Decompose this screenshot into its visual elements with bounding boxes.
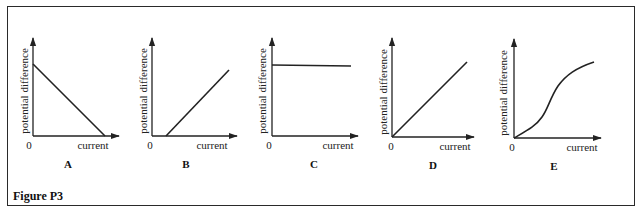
figure-caption: Figure P3	[13, 189, 63, 204]
x-axis-label: current	[322, 139, 353, 151]
y-axis-label: potential difference	[18, 48, 30, 134]
x-axis-label: current	[566, 141, 597, 153]
y-axis-label: potential difference	[137, 48, 149, 134]
panel-a: potential difference 0 current A	[18, 38, 119, 170]
origin-label: 0	[147, 139, 153, 151]
panel-letter: D	[429, 159, 437, 171]
graph-line	[33, 64, 105, 136]
origin-label: 0	[509, 141, 515, 153]
origin-label: 0	[266, 139, 272, 151]
x-axis-label: current	[77, 139, 108, 151]
graph-curve	[514, 62, 594, 138]
y-axis-label: potential difference	[377, 49, 389, 135]
graph-line	[392, 62, 467, 137]
panel-letter: A	[64, 158, 72, 170]
panel-d: potential difference 0 current D	[377, 38, 474, 171]
panel-letter: B	[182, 158, 190, 170]
y-axis-label: potential difference	[256, 48, 268, 134]
origin-label: 0	[388, 140, 394, 152]
panel-c: potential difference 0 current C	[256, 38, 358, 170]
panel-b: potential difference 0 current B	[137, 38, 237, 170]
y-axis-label: potential difference	[497, 50, 509, 136]
panel-letter: C	[310, 158, 318, 170]
figure-graphs: potential difference 0 current A potenti…	[0, 0, 640, 216]
x-axis-label: current	[196, 139, 227, 151]
panel-letter: E	[550, 160, 557, 172]
origin-label: 0	[26, 139, 32, 151]
graph-line	[166, 70, 229, 136]
graph-line	[272, 65, 351, 66]
x-axis-label: current	[439, 140, 470, 152]
panel-e: potential difference 0 current E	[497, 39, 601, 172]
